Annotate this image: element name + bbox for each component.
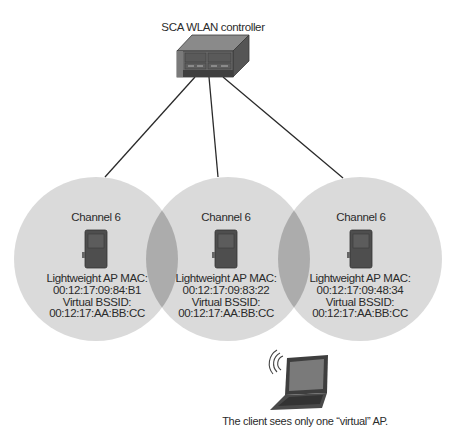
ap-info-2: Lightweight AP MAC: 00:12:17:09:83:22 Vi… <box>175 273 276 320</box>
virtual-bssid-value: 00:12:17:AA:BB:CC <box>178 308 274 320</box>
ap-info-1: Lightweight AP MAC: 00:12:17:09:84:B1 Vi… <box>46 273 147 320</box>
link-line-2 <box>209 77 218 177</box>
ap-mac-value: 00:12:17:09:84:B1 <box>53 285 141 297</box>
virtual-bssid-value: 00:12:17:AA:BB:CC <box>312 308 408 320</box>
channel-label: Channel 6 <box>71 211 120 223</box>
link-line-1 <box>105 77 195 177</box>
ap-info-3: Lightweight AP MAC: 00:12:17:09:48:34 Vi… <box>309 273 410 320</box>
controller-links <box>105 77 343 178</box>
ap-mac-value: 00:12:17:09:83:22 <box>183 285 270 297</box>
virtual-bssid-value: 00:12:17:AA:BB:CC <box>49 308 145 320</box>
ap-mac-value: 00:12:17:09:48:34 <box>317 285 404 297</box>
access-point-icon <box>347 230 372 268</box>
channel-label: Channel 6 <box>201 211 250 223</box>
wlan-controller-icon <box>177 35 249 77</box>
client-caption: The client sees only one “virtual” AP. <box>222 415 388 427</box>
link-line-3 <box>223 77 343 178</box>
controller-label: SCA WLAN controller <box>161 21 264 33</box>
access-point-icon <box>82 230 107 268</box>
wifi-signal-icon <box>269 350 283 374</box>
wireless-laptop-icon <box>269 350 328 410</box>
access-point-icon <box>212 230 237 268</box>
channel-label: Channel 6 <box>336 211 385 223</box>
